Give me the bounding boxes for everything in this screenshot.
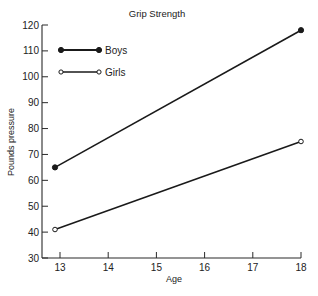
y-axis: 30405060708090100110120 bbox=[22, 20, 48, 264]
chart-title: Grip Strength bbox=[129, 8, 186, 19]
x-axis: 131415161718 bbox=[42, 252, 307, 273]
girls-legend-marker bbox=[97, 70, 101, 74]
legend-label: Boys bbox=[105, 45, 127, 56]
girls-data-point bbox=[53, 227, 58, 232]
boys-legend-marker bbox=[58, 47, 63, 52]
boys-data-point bbox=[52, 165, 57, 170]
legend: BoysGirls bbox=[58, 45, 127, 78]
girls-line bbox=[55, 142, 301, 230]
y-tick-label: 30 bbox=[28, 253, 40, 264]
x-tick-label: 18 bbox=[295, 262, 307, 273]
y-tick-label: 40 bbox=[28, 227, 40, 238]
x-tick-label: 15 bbox=[151, 262, 163, 273]
y-tick-label: 110 bbox=[23, 45, 39, 56]
boys-legend-marker bbox=[96, 47, 101, 52]
y-tick-label: 60 bbox=[28, 175, 40, 186]
plot-lines bbox=[52, 28, 303, 232]
legend-label: Girls bbox=[105, 67, 126, 78]
x-tick-label: 16 bbox=[199, 262, 211, 273]
girls-legend-marker bbox=[59, 70, 63, 74]
y-tick-label: 80 bbox=[28, 123, 40, 134]
y-axis-title: Pounds pressure bbox=[6, 108, 16, 176]
y-tick-label: 50 bbox=[28, 201, 40, 212]
x-tick-label: 14 bbox=[103, 262, 115, 273]
y-tick-label: 120 bbox=[22, 20, 39, 31]
boys-data-point bbox=[298, 28, 303, 33]
legend-item-boys: Boys bbox=[58, 45, 127, 56]
x-tick-label: 17 bbox=[247, 262, 259, 273]
x-tick-label: 13 bbox=[54, 262, 66, 273]
legend-item-girls: Girls bbox=[59, 67, 126, 78]
x-axis-title: Age bbox=[166, 274, 182, 284]
girls-data-point bbox=[299, 139, 304, 144]
y-tick-label: 90 bbox=[28, 97, 40, 108]
y-tick-label: 70 bbox=[28, 149, 40, 160]
y-tick-label: 100 bbox=[22, 71, 39, 82]
grip-strength-chart: Grip Strength 30405060708090100110120 13… bbox=[0, 0, 318, 296]
